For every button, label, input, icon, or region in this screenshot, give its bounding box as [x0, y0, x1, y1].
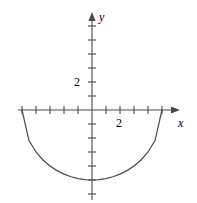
y-axis-name-label: y: [99, 11, 104, 23]
coordinate-plane-plot: [0, 0, 197, 203]
graph-figure: 22yx: [0, 0, 197, 203]
x-axis-tick-label-2: 2: [116, 117, 122, 129]
x-axis-arrowhead-icon: [171, 106, 180, 113]
y-axis-tick-label-2: 2: [74, 76, 80, 88]
x-axis-name-label: x: [178, 117, 183, 129]
y-axis-arrowhead-icon: [88, 12, 95, 21]
